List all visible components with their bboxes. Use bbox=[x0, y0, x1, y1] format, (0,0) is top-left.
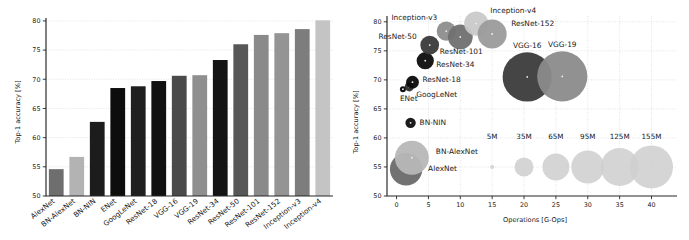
bubble-chart-x-tick-label: 20 bbox=[520, 201, 528, 209]
bar-rect-resnet-18 bbox=[151, 81, 166, 196]
bar-chart-y-tick-label: 55 bbox=[32, 163, 40, 171]
bar-item bbox=[69, 157, 84, 196]
bubble-center-dot bbox=[410, 122, 412, 124]
bubble-chart-x-tick-label: 25 bbox=[552, 201, 560, 209]
bubble-label-alexnet: AlexNet bbox=[428, 164, 457, 173]
bar-rect-googlenet bbox=[131, 86, 146, 196]
bar-chart-panel: 50556065707580 AlexNetBN-AlexNetBN-NINEN… bbox=[0, 0, 345, 240]
bar-rect-inception-v4 bbox=[315, 20, 330, 196]
bar-item bbox=[295, 29, 310, 196]
bubble-chart-x-axis-ticks: 0510152025303540 bbox=[395, 196, 656, 209]
bar-chart-y-tick-label: 60 bbox=[32, 134, 40, 142]
bar-chart-svg: 50556065707580 AlexNetBN-AlexNetBN-NINEN… bbox=[0, 0, 345, 240]
bubble-chart-x-axis-title: Operations [G-Ops] bbox=[503, 216, 567, 224]
bubble-chart-size-legend: 5M35M65M95M125M155M bbox=[487, 132, 673, 188]
size-legend-label: 35M bbox=[516, 132, 531, 141]
bubble-center-dot bbox=[459, 36, 461, 38]
bar-rect-resnet-34 bbox=[213, 60, 228, 196]
bubble-chart-x-tick-label: 10 bbox=[456, 201, 464, 209]
bubble-center-dot bbox=[412, 81, 414, 83]
bar-chart-y-tick-label: 80 bbox=[32, 17, 40, 25]
bar-rect-vgg-19 bbox=[192, 75, 207, 196]
bar-item bbox=[151, 81, 166, 196]
bubble-center-dot bbox=[475, 23, 477, 25]
bar-item bbox=[254, 35, 269, 196]
bubble-label-inception-v3: Inception-v3 bbox=[391, 13, 437, 22]
bubble-label-resnet-34: ResNet-34 bbox=[436, 60, 475, 69]
bar-item bbox=[315, 20, 330, 196]
bubble-chart-svg: 5M35M65M95M125M155M AlexNetBN-AlexNetBN-… bbox=[345, 0, 689, 240]
bubble-center-dot bbox=[411, 157, 413, 159]
size-legend-bubble bbox=[571, 150, 604, 183]
bar-rect-bn-alexnet bbox=[69, 157, 84, 196]
bar-item bbox=[110, 88, 125, 196]
size-legend-label: 5M bbox=[487, 132, 498, 141]
bubble-chart-y-axis-ticks: 50556065707580 bbox=[373, 18, 387, 200]
bubble-center-dot bbox=[445, 30, 447, 32]
bubble-label-vgg-16: VGG-16 bbox=[513, 41, 542, 50]
bar-item bbox=[213, 60, 228, 196]
bubble-chart-panel: 5M35M65M95M125M155M AlexNetBN-AlexNetBN-… bbox=[345, 0, 689, 240]
bar-item bbox=[90, 122, 105, 196]
bar-rect-resnet-101 bbox=[254, 35, 269, 196]
benchmark-figure: 50556065707580 AlexNetBN-AlexNetBN-NINEN… bbox=[0, 0, 689, 240]
size-legend-bubble bbox=[515, 157, 534, 176]
bar-item bbox=[172, 76, 187, 196]
bubble-label-bn-nin: BN-NIN bbox=[420, 118, 447, 127]
bar-rect-resnet-152 bbox=[274, 33, 289, 196]
bubble-chart-x-tick-label: 40 bbox=[647, 201, 655, 209]
bar-rect-enet bbox=[110, 88, 125, 196]
bubble-chart-y-tick-label: 50 bbox=[373, 192, 381, 200]
bubble-center-dot bbox=[424, 60, 426, 62]
bubble-label-resnet-50: ResNet-50 bbox=[378, 32, 417, 41]
bar-chart-x-axis-labels: AlexNetBN-AlexNetBN-NINENetGoogLeNetResN… bbox=[29, 196, 324, 231]
bubble-label-resnet-18: ResNet-18 bbox=[422, 75, 461, 84]
bubble-chart-y-tick-label: 65 bbox=[373, 105, 381, 113]
bubble-label-vgg-19: VGG-19 bbox=[548, 40, 577, 49]
bubble-chart-y-tick-label: 55 bbox=[373, 163, 381, 171]
bubble-chart-x-tick-label: 35 bbox=[616, 201, 624, 209]
bubble-center-dot bbox=[491, 33, 493, 35]
size-legend-label: 125M bbox=[610, 132, 630, 141]
bar-chart-gridlines bbox=[46, 21, 333, 167]
bubble-center-dot bbox=[526, 76, 528, 78]
bubble-center-dot bbox=[429, 44, 431, 46]
bar-rect-bn-nin bbox=[90, 122, 105, 196]
bubble-chart-y-tick-label: 70 bbox=[373, 76, 381, 84]
bar-chart-bars bbox=[49, 20, 330, 196]
bar-chart-y-axis-title: Top-1 accuracy [%] bbox=[14, 80, 22, 144]
size-legend-label: 155M bbox=[642, 132, 662, 141]
bubble-chart-x-tick-label: 30 bbox=[584, 201, 592, 209]
bar-item bbox=[274, 33, 289, 196]
bubble-center-dot bbox=[402, 88, 404, 90]
bubble-chart-y-tick-label: 75 bbox=[373, 47, 381, 55]
size-legend-label: 95M bbox=[580, 132, 595, 141]
bar-chart-y-tick-label: 65 bbox=[32, 105, 40, 113]
bar-chart-axis-spine bbox=[46, 18, 333, 196]
bar-rect-alexnet bbox=[49, 169, 64, 196]
bar-item bbox=[49, 169, 64, 196]
bubble-chart-x-tick-label: 5 bbox=[426, 201, 430, 209]
bubble-label-googlenet: GoogLeNet bbox=[416, 90, 457, 99]
bubble-label-inception-v4: Inception-v4 bbox=[490, 6, 536, 15]
bar-item bbox=[192, 75, 207, 196]
bubble-chart-y-tick-label: 60 bbox=[373, 134, 381, 142]
bubble-chart-x-tick-label: 15 bbox=[488, 201, 496, 209]
size-legend-bubble bbox=[490, 165, 494, 169]
bar-rect-resnet-50 bbox=[233, 44, 248, 196]
bubble-center-dot bbox=[561, 75, 563, 77]
bubble-label-resnet-101: ResNet-101 bbox=[440, 47, 483, 56]
bubble-chart-y-tick-label: 80 bbox=[373, 18, 381, 26]
bar-item bbox=[233, 44, 248, 196]
bar-chart-y-axis-ticks: 50556065707580 bbox=[32, 17, 46, 200]
bubble-label-resnet-152: ResNet-152 bbox=[511, 19, 554, 28]
bubble-chart-y-axis-title: Top-1 accuracy [%] bbox=[352, 90, 360, 154]
bar-rect-inception-v3 bbox=[295, 29, 310, 196]
bubble-label-bn-alexnet: BN-AlexNet bbox=[436, 147, 478, 156]
size-legend-bubble bbox=[542, 153, 569, 180]
bar-chart-y-tick-label: 75 bbox=[32, 46, 40, 54]
bubble-label-enet: ENet bbox=[400, 94, 418, 103]
bar-chart-x-tick-label: BN-NIN bbox=[72, 196, 98, 219]
size-legend-label: 65M bbox=[548, 132, 563, 141]
bubble-chart-x-tick-label: 0 bbox=[395, 201, 399, 209]
